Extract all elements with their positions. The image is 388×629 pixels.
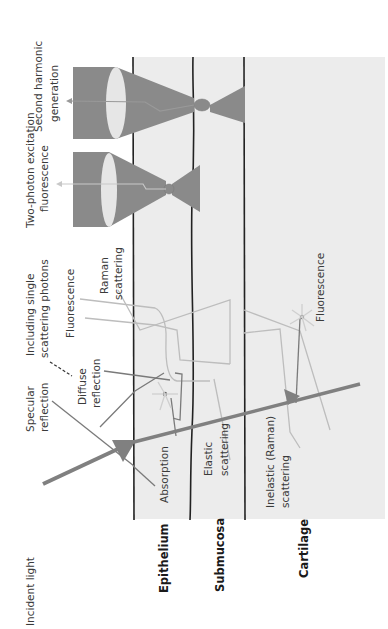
label-two-photon-2: fluorescence	[38, 145, 50, 212]
label-shg-1: Second harmonic	[32, 41, 44, 132]
label-raman-2: scattering	[112, 247, 124, 300]
label-elastic-2: scattering	[218, 423, 230, 476]
label-diffuse-2: reflection	[90, 358, 102, 408]
layer-submucosa: Submucosa	[213, 518, 227, 592]
label-including-single-1: Including single	[24, 274, 36, 356]
label-diffuse-1: Diffuse	[76, 368, 88, 405]
label-specular-2: reflection	[38, 382, 50, 432]
label-fluorescence-deep: Fluorescence	[314, 253, 326, 322]
diffuse-connector	[50, 362, 72, 376]
tissue-region	[133, 57, 385, 519]
submucosa-cartilage-boundary	[244, 57, 245, 520]
layer-cartilage: Cartilage	[297, 519, 311, 578]
light-tissue-interaction-diagram: Incident light Specular reflection Diffu…	[0, 0, 388, 629]
label-absorption: Absorption	[158, 446, 170, 503]
label-specular-1: Specular	[24, 385, 36, 432]
label-incident-light: Incident light	[24, 557, 36, 626]
label-elastic-1: Elastic	[202, 442, 214, 476]
label-including-single-2: scattering photons	[38, 259, 50, 358]
label-shg-2: generation	[48, 65, 60, 122]
label-inelastic-2: scattering	[279, 455, 291, 508]
label-raman-1: Raman	[98, 257, 110, 294]
label-inelastic-1: Inelastic (Raman)	[264, 416, 276, 508]
label-fluorescence-top: Fluorescence	[64, 269, 76, 338]
layer-epithelium: Epithelium	[157, 523, 171, 593]
layer-names: Epithelium Submucosa Cartilage	[157, 518, 311, 593]
